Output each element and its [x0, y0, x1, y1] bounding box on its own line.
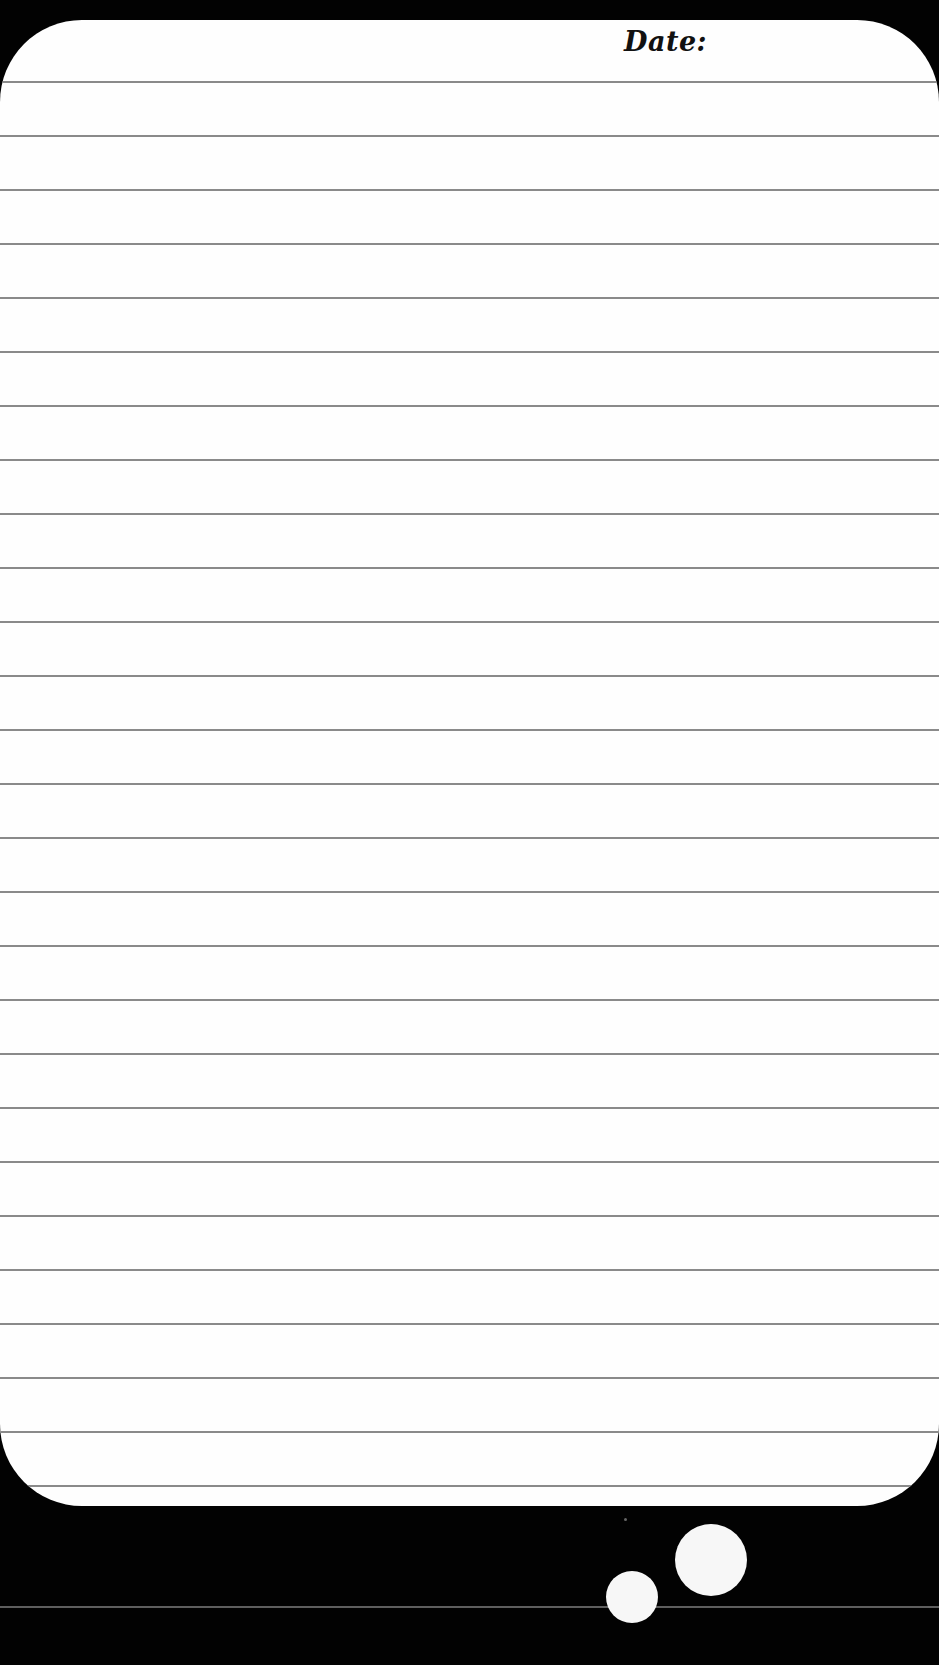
- ruled-line: [0, 999, 939, 1001]
- ruled-line: [0, 891, 939, 893]
- ruled-line: [0, 945, 939, 947]
- ruled-line: [0, 81, 939, 83]
- ruled-line: [0, 297, 939, 299]
- ruled-line: [0, 837, 939, 839]
- ruled-line: [0, 1215, 939, 1217]
- ruled-line: [0, 675, 939, 677]
- speck-dot: [624, 1518, 627, 1521]
- small-bubble: [606, 1571, 658, 1623]
- ruled-line: [0, 189, 939, 191]
- ruled-line: [0, 1161, 939, 1163]
- ruled-line: [0, 351, 939, 353]
- ruled-line: [0, 1107, 939, 1109]
- ruled-line: [0, 621, 939, 623]
- ruled-line: [0, 567, 939, 569]
- ruled-line: [0, 405, 939, 407]
- ruled-line: [0, 459, 939, 461]
- ruled-line: [0, 1323, 939, 1325]
- ruled-line: [0, 1269, 939, 1271]
- ruled-line: [0, 1377, 939, 1379]
- ruled-line: [0, 1431, 939, 1433]
- date-label: Date:: [624, 26, 707, 57]
- ruled-line: [0, 1053, 939, 1055]
- bottom-divider: [0, 1606, 939, 1608]
- ruled-line: [0, 729, 939, 731]
- ruled-lines: [0, 20, 939, 1506]
- ruled-line: [0, 1485, 939, 1487]
- ruled-line: [0, 243, 939, 245]
- ruled-line: [0, 135, 939, 137]
- note-card: Date:: [0, 20, 939, 1506]
- ruled-line: [0, 513, 939, 515]
- large-bubble: [675, 1524, 747, 1596]
- ruled-line: [0, 783, 939, 785]
